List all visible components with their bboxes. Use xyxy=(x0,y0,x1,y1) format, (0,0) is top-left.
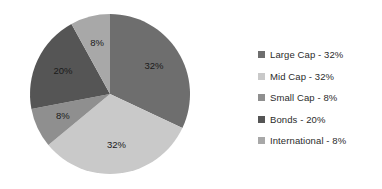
legend-item-international[interactable]: International - 8% xyxy=(258,130,382,152)
pie-plot-area: 32%32%8%20%8% xyxy=(0,0,232,189)
legend-swatch-icon xyxy=(258,116,265,123)
legend-swatch-icon xyxy=(258,137,265,144)
pie-data-label: 20% xyxy=(53,65,73,76)
legend-label: International - 8% xyxy=(270,136,346,146)
legend-item-bonds[interactable]: Bonds - 20% xyxy=(258,109,382,131)
legend-label: Small Cap - 8% xyxy=(270,93,337,103)
legend-swatch-icon xyxy=(258,94,265,101)
pie-chart-figure: 32%32%8%20%8% Large Cap - 32% Mid Cap - … xyxy=(0,0,382,189)
pie-svg: 32%32%8%20%8% xyxy=(0,0,232,189)
legend-swatch-icon xyxy=(258,51,265,58)
legend-swatch-icon xyxy=(258,73,265,80)
legend-item-small-cap[interactable]: Small Cap - 8% xyxy=(258,87,382,109)
legend-label: Mid Cap - 32% xyxy=(270,72,334,82)
legend-item-large-cap[interactable]: Large Cap - 32% xyxy=(258,44,382,66)
chart-legend: Large Cap - 32% Mid Cap - 32% Small Cap … xyxy=(258,44,382,152)
legend-item-mid-cap[interactable]: Mid Cap - 32% xyxy=(258,66,382,88)
pie-data-label: 32% xyxy=(144,60,164,71)
legend-label: Large Cap - 32% xyxy=(270,50,343,60)
pie-data-label: 8% xyxy=(90,37,104,48)
legend-label: Bonds - 20% xyxy=(270,115,326,125)
pie-data-label: 32% xyxy=(107,139,127,150)
pie-data-label: 8% xyxy=(56,110,70,121)
